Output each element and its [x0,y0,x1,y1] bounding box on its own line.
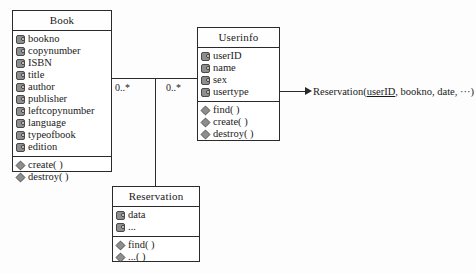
operations-compartment-userinfo: find( ) create( ) destroy( ) [198,101,279,143]
attribute-label: sex [210,74,227,86]
attribute-icon [201,76,210,85]
attribute-row: copynumber [13,45,111,57]
multiplicity-book-side: 0..* [115,82,130,93]
attribute-icon [16,35,25,44]
attribute-icon [201,64,210,73]
attribute-label: ISBN [25,57,52,69]
attribute-label: author [25,81,55,93]
attribute-row: sex [198,74,279,86]
operations-compartment-book: create( ) destroy( ) [13,156,111,186]
operations-compartment-reservation: find( ) ...( ) [113,236,199,266]
operation-label: create( ) [210,116,248,128]
class-box-reservation[interactable]: Reservation data ... find( ) ...( ) [112,186,200,262]
attribute-label: usertype [210,86,249,98]
attribute-icon [16,59,25,68]
operation-row: destroy( ) [198,128,279,140]
attribute-icon [16,47,25,56]
annotation-arrowhead-icon [305,87,312,95]
operation-row: create( ) [13,159,111,171]
attribute-row: publisher [13,93,111,105]
attribute-icon [201,88,210,97]
multiplicity-userinfo-side: 0..* [166,82,181,93]
class-box-book[interactable]: Book bookno copynumber ISBN title author… [12,10,112,172]
relation-schema-annotation: Reservation(userID, bookno, date, ···) [313,85,474,98]
attribute-label: ... [125,221,136,233]
attribute-row: data [113,209,199,221]
attribute-label: copynumber [25,45,81,57]
attribute-label: bookno [25,33,60,45]
association-line-to-reservation [155,78,156,186]
attribute-row: bookno [13,33,111,45]
annotation-rest: , bookno, date, ···) [395,86,474,97]
operation-label: destroy( ) [210,128,254,140]
class-name-reservation: Reservation [113,187,199,207]
attribute-row: title [13,69,111,81]
attribute-icon [16,131,25,140]
uml-class-diagram-canvas: 0..* 0..* Book bookno copynumber ISBN ti… [0,0,476,273]
operation-row: find( ) [198,104,279,116]
attribute-row: name [198,62,279,74]
attribute-label: typeofbook [25,129,76,141]
attribute-icon [116,223,125,232]
attribute-row: ISBN [13,57,111,69]
class-box-userinfo[interactable]: Userinfo userID name sex usertype find( … [197,27,280,141]
operation-label: destroy( ) [25,171,69,183]
attribute-label: data [125,209,146,221]
attribute-row: typeofbook [13,129,111,141]
operation-label: find( ) [210,104,240,116]
attributes-compartment-book: bookno copynumber ISBN title author publ… [13,31,111,156]
class-name-book: Book [13,11,111,31]
operation-row: create( ) [198,116,279,128]
attribute-icon [16,95,25,104]
operation-label: create( ) [25,159,63,171]
attribute-icon [16,119,25,128]
attribute-label: title [25,69,44,81]
operation-row: ...( ) [113,251,199,263]
attributes-compartment-reservation: data ... [113,207,199,236]
attribute-label: userID [210,50,242,62]
operation-label: find( ) [125,239,155,251]
attribute-icon [201,52,210,61]
attribute-icon [16,83,25,92]
attribute-row: usertype [198,86,279,98]
attribute-icon [16,143,25,152]
attribute-icon [16,107,25,116]
attribute-row: author [13,81,111,93]
attribute-row: leftcopynumber [13,105,111,117]
annotation-prefix: Reservation( [313,86,367,97]
attribute-icon [16,71,25,80]
attribute-label: leftcopynumber [25,105,94,117]
attributes-compartment-userinfo: userID name sex usertype [198,48,279,101]
attribute-row: ... [113,221,199,233]
attribute-row: language [13,117,111,129]
annotation-primary-key: userID [367,86,396,97]
operation-row: find( ) [113,239,199,251]
attribute-label: language [25,117,66,129]
attribute-row: userID [198,50,279,62]
operation-label: ...( ) [125,251,146,263]
attribute-icon [116,211,125,220]
attribute-label: name [210,62,236,74]
attribute-label: publisher [25,93,67,105]
attribute-row: edition [13,141,111,153]
class-name-userinfo: Userinfo [198,28,279,48]
operation-row: destroy( ) [13,171,111,183]
attribute-label: edition [25,141,57,153]
